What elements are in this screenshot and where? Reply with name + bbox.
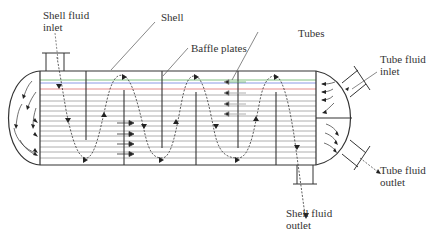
label-line: Shell fluid [286,207,332,219]
label-tube-fluid-inlet: Tube fluid inlet [380,53,426,77]
label-shell-fluid-outlet: Shell fluid outlet [286,207,332,231]
heat-exchanger-diagram [0,0,432,233]
label-line: Tube fluid [380,164,426,176]
label-baffle-plates: Baffle plates [191,42,247,54]
leader-lines [55,22,377,89]
label-tube-fluid-outlet: Tube fluid outlet [380,164,426,188]
shell-flow-arrows [56,74,309,219]
label-line: Shell fluid [43,9,89,21]
label-shell: Shell [161,11,184,23]
label-line: inlet [43,21,89,33]
label-line: Tube fluid [380,53,426,65]
label-shell-fluid-inlet: Shell fluid inlet [43,9,89,33]
left-head-flow-arrows [14,81,36,155]
label-tubes: Tubes [298,27,325,39]
baffle-plates [86,71,276,165]
label-line: inlet [380,65,426,77]
label-line: outlet [380,176,426,188]
label-line: outlet [286,219,332,231]
